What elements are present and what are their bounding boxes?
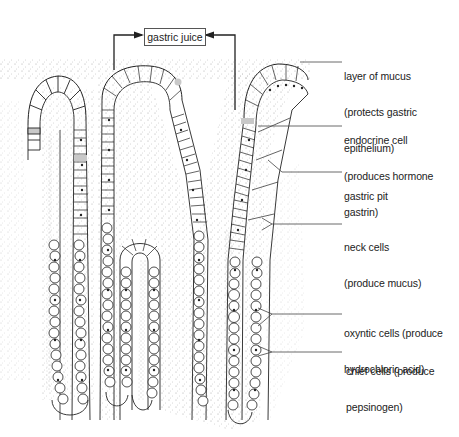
label-line: chief cells (produce: [346, 365, 434, 377]
label-line: layer of mucus: [344, 70, 417, 82]
gastric-juice-label: gastric juice: [144, 28, 206, 46]
label-line: gastric pit: [344, 190, 388, 202]
label-line: oxyntic cells (produce: [344, 327, 443, 339]
label-line: endocrine cell: [344, 134, 433, 146]
label-line: pepsinogen): [346, 401, 434, 413]
label-gastric-pit: gastric pit: [344, 166, 388, 214]
label-line: (produce mucus): [344, 277, 421, 289]
label-neck-cells: neck cells (produce mucus): [344, 217, 421, 301]
label-line: neck cells: [344, 241, 421, 253]
label-chief-cells: chief cells (produce pepsinogen): [346, 341, 434, 425]
